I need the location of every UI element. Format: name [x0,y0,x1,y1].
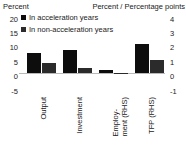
bar-tfp-non-acceleration [150,60,164,73]
right-axis-tick-minus1: -1 [170,88,184,96]
left-axis-tick-5: 5 [2,59,18,67]
bar-investment-non-acceleration [78,68,92,73]
left-axis-tick-minus5: -5 [2,88,18,96]
left-axis-tick-20: 20 [2,16,18,24]
legend-swatch-acceleration [21,15,26,20]
bar-chart: Percent Percent / Percentage points 20 1… [0,0,186,162]
category-label-line: Output [40,97,49,120]
category-label-investment: Investment [76,97,85,134]
right-axis-tick-1: 1 [170,59,184,67]
left-axis-title: Percent [3,2,29,11]
right-axis-tick-0: 0 [170,73,184,81]
category-label-line: ment (RHS) [121,97,130,137]
left-axis-tick-10: 10 [2,44,18,52]
bar-group-investment [60,22,95,94]
right-axis-tick-3: 3 [170,30,184,38]
bar-group-employment [96,22,131,94]
bar-employment-non-acceleration [114,73,128,74]
bar-tfp-acceleration [135,44,149,73]
bar-group-tfp [132,22,167,94]
legend-label-acceleration: In acceleration years [29,13,98,22]
bar-output-acceleration [27,53,41,73]
bar-investment-acceleration [63,50,77,73]
bar-employment-acceleration [99,70,113,73]
category-label-line: Investment [76,97,85,134]
category-label-line: TFP (RHS) [148,97,157,134]
bar-output-non-acceleration [42,63,56,73]
plot-area [19,22,165,94]
category-label-employment: Employ-ment (RHS) [112,97,129,137]
left-axis-tick-15: 15 [2,30,18,38]
category-label-tfp: TFP (RHS) [148,97,157,134]
left-axis-tick-0: 0 [2,73,18,81]
right-axis-tick-4: 4 [170,16,184,24]
right-axis-tick-2: 2 [170,44,184,52]
category-label-output: Output [40,97,49,120]
right-axis-title: Percent / Percentage points [92,2,185,11]
bar-group-output [24,22,59,94]
